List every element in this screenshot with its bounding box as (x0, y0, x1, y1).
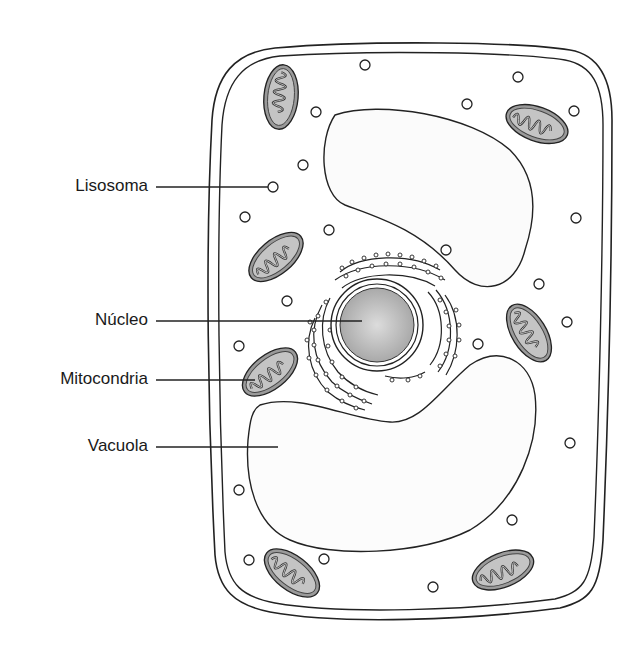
label-mitocondria: Mitocondria (60, 369, 148, 389)
label-lisosoma: Lisosoma (75, 176, 148, 196)
plant-cell-diagram: Lisosoma Núcleo Mitocondria Vacuola (0, 0, 629, 651)
nucleus (331, 279, 423, 371)
label-vacuola: Vacuola (88, 436, 148, 456)
label-nucleo: Núcleo (95, 310, 148, 330)
